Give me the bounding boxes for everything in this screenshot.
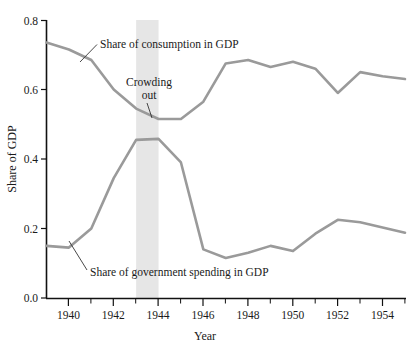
x-axis-title: Year xyxy=(194,329,216,343)
y-tick-label-2: 0.4 xyxy=(24,153,39,165)
x-tick-label-1954: 1954 xyxy=(371,309,394,321)
x-tick-label-1948: 1948 xyxy=(236,309,259,321)
x-tick-label-1944: 1944 xyxy=(147,309,170,321)
annotation-consumption-label: Share of consumption in GDP xyxy=(100,38,239,51)
chart-container: 0.8 0.6 0.4 0.2 0.0 1940 19 xyxy=(0,0,417,348)
x-tick-label-1946: 1946 xyxy=(192,309,215,321)
series-line-consumption xyxy=(47,43,406,119)
y-tick-label-1: 0.6 xyxy=(24,84,39,96)
x-tick-label-1952: 1952 xyxy=(326,309,349,321)
highlight-band-crowding-out xyxy=(136,20,158,298)
line-chart: 0.8 0.6 0.4 0.2 0.0 1940 19 xyxy=(0,0,417,348)
y-axis-title: Share of GDP xyxy=(5,125,19,193)
y-tick-marks xyxy=(41,21,47,299)
annotation-crowding-out-line1: Crowding xyxy=(126,76,172,89)
leader-line-government xyxy=(69,241,87,270)
x-tick-label-1940: 1940 xyxy=(57,309,80,321)
y-tick-label-3: 0.2 xyxy=(24,223,39,235)
y-tick-label-0: 0.8 xyxy=(24,15,39,27)
x-tick-label-1950: 1950 xyxy=(281,309,304,321)
series-line-government-spending xyxy=(47,139,406,258)
y-tick-label-4: 0.0 xyxy=(24,292,39,304)
annotation-crowding-out-line2: out xyxy=(142,89,158,101)
annotation-government-label: Share of government spending in GDP xyxy=(90,266,269,279)
x-tick-label-1942: 1942 xyxy=(102,309,125,321)
